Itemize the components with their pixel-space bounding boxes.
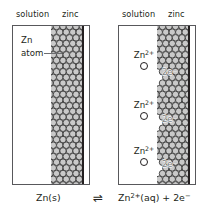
left-zinc-lattice	[51, 25, 84, 185]
right-panel-zinc-header: zinc	[168, 9, 185, 19]
left-panel-solution-header: solution	[16, 9, 49, 19]
equation-reactant: Zn(s)	[36, 192, 61, 203]
zinc-ion-1-label: Zn2+	[127, 50, 161, 60]
zinc-equilibrium-figure: solution zinc solution zinc Zn atom Zn2+	[0, 0, 204, 218]
right-metal-edge-line	[188, 25, 190, 185]
electron-label-3: 2e−	[162, 159, 178, 169]
zinc-ion-2-label: Zn2+	[127, 100, 161, 110]
product-electrons: + 2e	[159, 192, 185, 203]
product-charge: 2+	[130, 192, 140, 200]
zinc-ion-3-label: Zn2+	[127, 146, 161, 156]
product-state: (aq)	[140, 192, 159, 203]
zn-atom-label-line2: atom	[21, 48, 43, 58]
zinc-ion-3-circle	[140, 158, 148, 166]
left-lattice-svg	[51, 25, 84, 185]
left-panel: Zn atom	[12, 25, 90, 185]
product-electron-charge: −	[185, 192, 191, 200]
left-panel-zinc-header: zinc	[62, 9, 79, 19]
electron-label-2: 2e−	[162, 114, 178, 124]
zn-atom-label-line1: Zn	[21, 35, 32, 45]
zinc-ion-1-circle	[140, 62, 148, 70]
left-metal-edge-line	[82, 25, 84, 185]
zn-atom-label: Zn atom	[21, 34, 43, 60]
zinc-ion-2: Zn2+	[127, 100, 161, 120]
equation-products: Zn2+(aq) + 2e−	[118, 192, 191, 203]
zinc-ion-3: Zn2+	[127, 146, 161, 166]
right-panel-solution-header: solution	[122, 9, 155, 19]
zinc-ion-1: Zn2+	[127, 50, 161, 70]
equilibrium-arrow-icon: ⇌	[93, 191, 103, 205]
electron-label-1: 2e−	[162, 67, 178, 77]
zinc-ion-2-circle	[140, 112, 148, 120]
right-panel: Zn2+ Zn2+ Zn2+ 2e− 2e− 2e−	[118, 25, 196, 185]
product-species: Zn	[118, 192, 130, 203]
zn-atom-leader-line	[44, 53, 62, 54]
